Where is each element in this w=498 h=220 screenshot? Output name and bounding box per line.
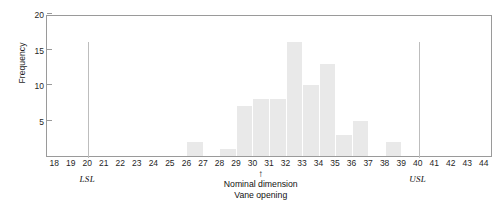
nominal-dimension-label: Nominal dimension xyxy=(181,179,341,190)
x-axis-title: Vane opening xyxy=(181,190,341,201)
y-axis-title: Frequency xyxy=(17,18,27,108)
histogram-bar xyxy=(353,121,369,157)
up-arrow-icon: ↑ xyxy=(181,170,341,179)
y-tick-label: 10 xyxy=(20,82,44,91)
histogram-figure: Frequency 5101520 1819202122232425262728… xyxy=(0,0,498,220)
y-tick-mark xyxy=(47,84,52,85)
histogram-bar xyxy=(336,135,352,156)
lsl-line xyxy=(88,42,89,158)
histogram-bar xyxy=(303,85,319,156)
histogram-bar xyxy=(220,149,236,156)
y-tick-label: 5 xyxy=(20,118,44,127)
histogram-bar xyxy=(320,64,336,156)
histogram-bar xyxy=(253,99,269,156)
plot-area xyxy=(46,15,492,157)
x-tick-label: 44 xyxy=(474,159,494,168)
histogram-bar xyxy=(386,142,402,156)
y-tick-label: 15 xyxy=(20,47,44,56)
histogram-bar xyxy=(287,42,303,156)
y-tick-mark xyxy=(47,49,52,50)
lsl-label: LSL xyxy=(67,174,107,184)
y-tick-mark xyxy=(47,120,52,121)
nominal-dimension-annotation: ↑Nominal dimensionVane opening xyxy=(181,170,341,201)
histogram-bar xyxy=(237,106,253,156)
y-tick-label: 20 xyxy=(20,11,44,20)
usl-label: USL xyxy=(398,174,438,184)
y-tick-mark xyxy=(47,13,52,14)
usl-line xyxy=(419,42,420,158)
histogram-bar xyxy=(187,142,203,156)
histogram-bar xyxy=(270,99,286,156)
